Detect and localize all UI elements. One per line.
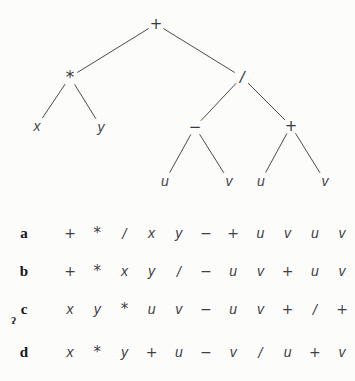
token: * [121, 302, 129, 317]
token-sequence: x*y+u−v/u+v [56, 333, 355, 371]
tree-edges [0, 0, 355, 205]
sequence-row: cxy*uv−uv+/+ [0, 290, 355, 328]
tree-edge [201, 84, 236, 121]
token: + [309, 345, 321, 359]
token: + [336, 302, 348, 316]
token: + [146, 345, 158, 359]
tree-edge [296, 134, 320, 173]
token: x [67, 302, 74, 316]
token: + [64, 264, 76, 278]
tree-leaf-y: y [98, 120, 105, 134]
tree-edge [43, 84, 65, 117]
token: u [148, 302, 156, 316]
tree-leaf-v: v [322, 174, 329, 188]
token: x [148, 226, 155, 240]
tree-leaf-x: x [34, 119, 41, 133]
scan-artifact-speck: ʔ [11, 315, 16, 326]
tree-edge [164, 29, 235, 73]
token: u [311, 226, 319, 240]
token: v [339, 226, 346, 240]
token: / [122, 226, 126, 241]
token: v [339, 264, 346, 278]
token: u [256, 226, 264, 240]
token: + [282, 264, 294, 278]
token: / [177, 264, 181, 279]
token: u [229, 264, 237, 278]
tree-edge [266, 134, 287, 172]
tree-leaf-u: u [257, 174, 265, 188]
expression-tree-figure: +*/xy−+uvuv a+*/xy−+uvuvb+*xy/−uv+uvcxy*… [0, 0, 355, 381]
token: + [282, 302, 294, 316]
token: − [200, 264, 212, 278]
tree-edge [248, 83, 284, 119]
tree-operator-node: / [240, 69, 245, 86]
token: + [227, 226, 239, 240]
token: x [121, 264, 128, 278]
tree-operator-node: + [150, 17, 163, 32]
tree-edge [75, 85, 96, 119]
token: * [93, 345, 101, 360]
tree-leaf-u: u [161, 174, 169, 188]
traversal-sequence-rows: a+*/xy−+uvuvb+*xy/−uv+uvcxy*uv−uv+/+dx*y… [0, 205, 355, 381]
token: u [311, 264, 319, 278]
token-sequence: +*/xy−+uvuv [56, 214, 355, 252]
sequence-row: a+*/xy−+uvuv [0, 214, 355, 252]
row-label-c: c [14, 302, 34, 317]
tree-leaf-v: v [226, 174, 233, 188]
token: v [175, 302, 182, 316]
token: / [313, 302, 317, 317]
tree-edge [200, 135, 224, 173]
token: v [257, 302, 264, 316]
token: − [200, 345, 212, 359]
row-label-b: b [14, 264, 34, 279]
token: − [200, 302, 212, 316]
token: u [284, 345, 292, 359]
sequence-row: dx*y+u−v/u+v [0, 333, 355, 371]
token-sequence: +*xy/−uv+uv [56, 252, 355, 290]
sequence-row: b+*xy/−uv+uv [0, 252, 355, 290]
token: * [93, 226, 101, 241]
token: x [67, 345, 74, 359]
tree-edge [170, 135, 191, 172]
token-sequence: xy*uv−uv+/+ [56, 290, 355, 328]
tree-operator-node: − [189, 120, 202, 135]
tree-operator-node: + [285, 119, 298, 134]
token: * [93, 264, 101, 279]
token: − [200, 226, 212, 240]
token: + [64, 226, 76, 240]
row-label-d: d [14, 345, 34, 360]
token: y [175, 226, 182, 240]
token: u [175, 345, 183, 359]
token: y [94, 302, 101, 316]
token: v [230, 345, 237, 359]
row-label-a: a [14, 226, 34, 241]
token: y [148, 264, 155, 278]
token: v [257, 264, 264, 278]
token: u [229, 302, 237, 316]
tree-edge [78, 29, 149, 73]
token: v [339, 345, 346, 359]
token: v [284, 226, 291, 240]
token: / [258, 345, 262, 360]
tree-operator-node: * [66, 69, 75, 86]
token: y [121, 345, 128, 359]
